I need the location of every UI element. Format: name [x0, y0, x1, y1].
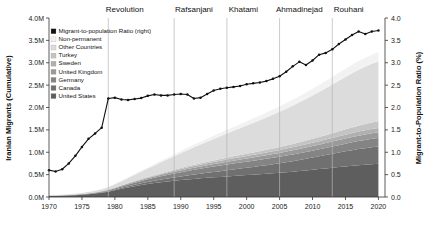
y-tick-label: 2.0M: [28, 104, 44, 111]
legend-swatch: [51, 69, 56, 74]
y2-tick-label: 0.5: [391, 171, 401, 178]
ratio-data-point: [114, 96, 117, 99]
era-labels: RevolutionRafsanjaniKhatamiAhmadinejadRo…: [106, 5, 364, 14]
ratio-data-point: [61, 168, 64, 171]
migration-chart: 1970197519801985199019952000200520102015…: [0, 0, 430, 230]
ratio-data-point: [147, 95, 150, 98]
y-tick-label: 2.5M: [28, 82, 44, 89]
y2-tick-label: 0.0: [391, 194, 401, 201]
ratio-data-point: [232, 86, 235, 89]
x-tick-label: 1975: [74, 203, 90, 210]
legend-label: United Kingdom: [59, 68, 103, 75]
ratio-data-point: [127, 99, 130, 102]
era-label: Rouhani: [334, 5, 364, 14]
legend-swatch: [51, 94, 56, 99]
ratio-data-point: [120, 98, 123, 101]
x-tick-label: 1995: [206, 203, 222, 210]
ratio-data-point: [324, 52, 327, 55]
legend-swatch: [51, 53, 56, 58]
ratio-data-point: [265, 80, 268, 83]
ratio-data-point: [344, 38, 347, 41]
ratio-data-point: [351, 34, 354, 37]
y-tick-label: 1.0M: [28, 149, 44, 156]
x-tick-label: 2015: [338, 203, 354, 210]
ratio-data-point: [186, 93, 189, 96]
y2-tick-label: 4.0: [391, 15, 401, 22]
ratio-data-point: [107, 97, 110, 100]
ratio-data-point: [166, 94, 169, 97]
era-label: Khatami: [229, 5, 259, 14]
ratio-data-point: [305, 64, 308, 67]
legend-label: Sweden: [59, 59, 82, 66]
ratio-data-point: [259, 81, 262, 84]
ratio-data-point: [338, 43, 341, 46]
legend-swatch: [51, 86, 56, 91]
ratio-data-point: [272, 78, 275, 81]
x-tick-label: 1990: [173, 203, 189, 210]
x-tick-label: 2000: [239, 203, 255, 210]
ratio-data-point: [94, 132, 97, 135]
ratio-data-point: [364, 33, 367, 36]
ratio-data-point: [81, 146, 84, 149]
ratio-data-point: [206, 93, 209, 96]
ratio-data-point: [298, 61, 301, 64]
ratio-data-point: [285, 70, 288, 73]
ratio-data-point: [226, 87, 229, 90]
x-tick-label: 2010: [305, 203, 321, 210]
chart-canvas: 1970197519801985199019952000200520102015…: [0, 0, 430, 230]
y-axis-right-title: Migrant-to-Population Ratio (%): [414, 51, 423, 164]
y-axis-left-title: Iranian Migrants (Cumulative): [4, 55, 13, 161]
x-tick-label: 1970: [41, 203, 57, 210]
ratio-data-point: [68, 162, 71, 165]
y-tick-label: 0.0M: [28, 194, 44, 201]
y2-tick-label: 3.0: [391, 59, 401, 66]
legend-label: United States: [59, 92, 96, 99]
y2-tick-label: 2.0: [391, 104, 401, 111]
y-tick-label: 0.5M: [28, 171, 44, 178]
x-tick-label: 2020: [371, 203, 387, 210]
legend-label: Other Countries: [59, 43, 103, 50]
ratio-data-point: [160, 94, 163, 97]
ratio-data-point: [357, 30, 360, 33]
legend-swatch: [51, 61, 56, 66]
y-axis-left-ticks: 0.0M0.5M1.0M1.5M2.0M2.5M3.0M3.5M4.0M: [28, 15, 49, 201]
x-axis-ticks: 1970197519801985199019952000200520102015…: [41, 197, 386, 210]
ratio-data-point: [212, 89, 215, 92]
ratio-data-point: [331, 48, 334, 51]
ratio-data-point: [239, 85, 242, 88]
legend-label: Migrant-to-population Ratio (right): [59, 27, 152, 34]
ratio-data-point: [245, 83, 248, 86]
era-label: Ahmadinejad: [276, 5, 323, 14]
ratio-data-point: [377, 29, 380, 32]
y-tick-label: 4.0M: [28, 15, 44, 22]
ratio-data-point: [278, 75, 281, 78]
legend-swatch: [51, 77, 56, 82]
y-tick-label: 3.5M: [28, 37, 44, 44]
y2-tick-label: 3.5: [391, 37, 401, 44]
ratio-data-point: [180, 93, 183, 96]
era-label: Revolution: [106, 5, 144, 14]
ratio-data-point: [252, 82, 255, 85]
legend-label: Non-permanent: [59, 35, 102, 42]
ratio-data-point: [311, 59, 314, 62]
ratio-data-point: [193, 97, 196, 100]
ratio-data-point: [74, 155, 77, 158]
ratio-data-point: [54, 170, 57, 173]
ratio-data-point: [318, 53, 321, 56]
x-tick-label: 1985: [140, 203, 156, 210]
ratio-data-point: [153, 93, 156, 96]
legend-swatch: [51, 37, 56, 42]
y-tick-label: 3.0M: [28, 59, 44, 66]
y2-tick-label: 1.0: [391, 149, 401, 156]
legend-label: Canada: [59, 84, 81, 91]
ratio-data-point: [100, 126, 103, 129]
legend-label: Germany: [59, 76, 85, 83]
y-axis-right-ticks: 0.00.51.01.52.02.53.03.54.0: [385, 15, 401, 201]
ratio-data-point: [140, 97, 143, 100]
legend-swatch: [51, 29, 56, 34]
ratio-data-point: [87, 138, 90, 141]
legend-label: Turkey: [59, 51, 79, 58]
y2-tick-label: 1.5: [391, 126, 401, 133]
x-tick-label: 2005: [272, 203, 288, 210]
ratio-data-point: [371, 30, 374, 33]
